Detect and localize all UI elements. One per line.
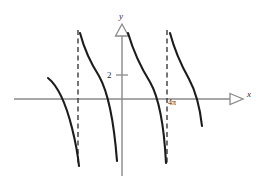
y-axis-label: y [119,12,123,21]
x-axis-label: x [247,90,251,99]
graph-canvas [0,0,266,181]
x-axis-arrow-icon [230,94,243,105]
curve-branch-4 [170,33,202,126]
function-graph-figure: y x 2 4π [0,0,266,181]
y-axis-arrow-icon [116,24,129,36]
x-tick-label-4pi: 4π [168,99,176,107]
curve-branch-3 [128,33,166,163]
y-tick-label-2: 2 [107,71,112,80]
curve-branch-2 [80,33,117,161]
curve-branch-1 [48,78,79,166]
